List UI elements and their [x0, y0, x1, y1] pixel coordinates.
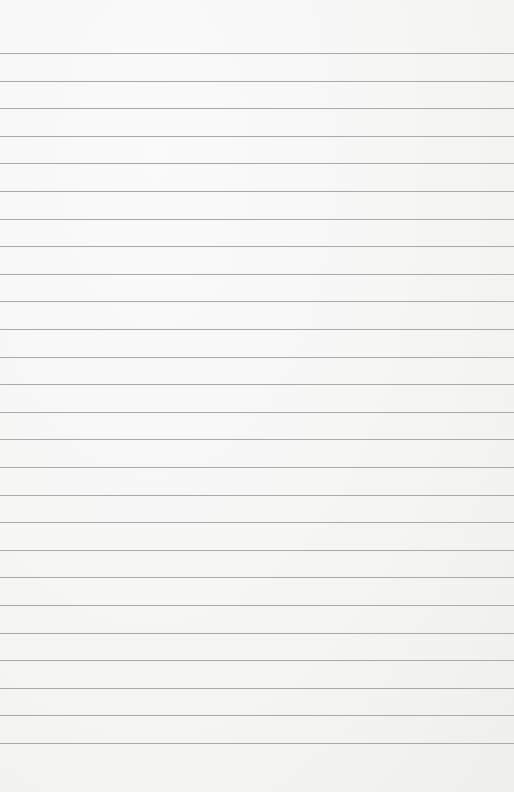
ruled-line — [0, 467, 514, 468]
ruled-line — [0, 246, 514, 247]
ruled-line — [0, 163, 514, 164]
ruled-line — [0, 301, 514, 302]
ruled-line — [0, 329, 514, 330]
ruled-line — [0, 495, 514, 496]
ruled-line — [0, 633, 514, 634]
lined-paper-sheet — [0, 0, 514, 792]
ruled-line — [0, 439, 514, 440]
ruled-line — [0, 108, 514, 109]
ruled-line — [0, 53, 514, 54]
ruled-line — [0, 550, 514, 551]
ruled-line — [0, 81, 514, 82]
ruled-line — [0, 577, 514, 578]
ruled-line — [0, 384, 514, 385]
ruled-line — [0, 274, 514, 275]
ruled-line — [0, 412, 514, 413]
ruled-line — [0, 357, 514, 358]
ruled-line — [0, 688, 514, 689]
ruled-line — [0, 660, 514, 661]
ruled-line — [0, 715, 514, 716]
ruled-line — [0, 136, 514, 137]
ruled-line — [0, 191, 514, 192]
ruled-line — [0, 743, 514, 744]
ruled-line — [0, 605, 514, 606]
ruled-line — [0, 522, 514, 523]
ruled-line — [0, 219, 514, 220]
